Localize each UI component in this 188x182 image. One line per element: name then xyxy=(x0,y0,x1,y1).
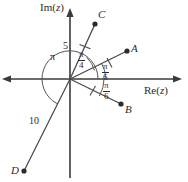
imaginary-axis-label-suffix: ) xyxy=(60,1,64,13)
angle-label-pi-over-4-denominator: 4 xyxy=(78,61,85,70)
angle-label-pi-over-6-lower-numerator: π xyxy=(103,81,110,90)
point-marker-b xyxy=(118,101,123,106)
real-axis-arrowhead-negative xyxy=(2,75,11,82)
point-label-a: A xyxy=(131,43,138,54)
point-label-b: B xyxy=(125,104,132,115)
angle-label-pi-over-4: π 4 xyxy=(78,50,85,70)
point-label-d: D xyxy=(11,165,19,176)
angle-label-pi-over-6-lower: π 6 xyxy=(103,81,110,101)
imaginary-axis-label-prefix: Im( xyxy=(40,1,56,13)
point-label-c: C xyxy=(98,9,105,20)
angle-label-pi: π xyxy=(50,52,55,62)
vector-ob xyxy=(70,79,121,104)
point-marker-d xyxy=(21,168,26,173)
real-axis-label-prefix: Re( xyxy=(144,84,160,96)
angle-label-pi-over-4-numerator: π xyxy=(78,50,85,59)
point-marker-c xyxy=(92,21,97,26)
real-axis-label: Re(z) xyxy=(144,85,168,96)
real-axis-label-suffix: ) xyxy=(164,84,168,96)
magnitude-label-oc: 5 xyxy=(63,41,68,51)
angle-label-pi-over-6-upper: π 6 xyxy=(102,62,109,82)
angle-label-pi-over-6-upper-numerator: π xyxy=(102,62,109,71)
imaginary-axis-arrowhead xyxy=(66,8,73,17)
magnitude-label-od: 10 xyxy=(29,116,39,126)
argand-diagram: Im(z) Re(z) A B C D 5 10 π π 4 π 6 π 6 xyxy=(0,0,188,182)
real-axis-arrowhead-positive xyxy=(173,75,182,82)
point-marker-a xyxy=(124,48,129,53)
imaginary-axis-label: Im(z) xyxy=(40,2,64,13)
angle-label-pi-over-6-lower-denominator: 6 xyxy=(103,92,110,101)
